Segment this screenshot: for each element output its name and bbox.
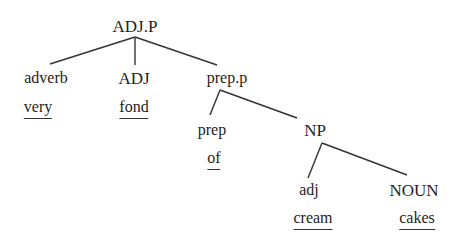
edge-np-adj [308, 143, 322, 178]
node-np: NP [304, 122, 326, 139]
edge-prepp-np [220, 90, 297, 118]
node-adj-upper: ADJ [118, 70, 149, 87]
syntax-tree-diagram: ADJ.P adverb ADJ prep.p very fond prep N… [0, 0, 459, 237]
word-of: of [207, 150, 220, 170]
edge-prepp-prep [210, 90, 220, 115]
word-very: very [24, 99, 52, 119]
node-adjp: ADJ.P [113, 18, 158, 35]
word-fond: fond [119, 99, 148, 119]
node-adj-lower: adj [299, 182, 319, 198]
edge-adjp-prepp [135, 37, 217, 65]
tree-edges [0, 0, 459, 237]
node-prepp: prep.p [207, 70, 247, 86]
node-prep: prep [198, 122, 226, 138]
edge-np-noun [322, 143, 407, 175]
node-adverb: adverb [24, 70, 68, 86]
edge-adjp-adverb [50, 37, 135, 64]
word-cream: cream [293, 210, 332, 230]
word-cakes: cakes [399, 210, 435, 230]
node-noun: NOUN [389, 182, 438, 199]
